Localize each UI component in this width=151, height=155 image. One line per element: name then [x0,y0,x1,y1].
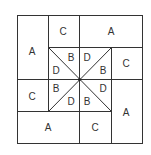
piece-label-a: A [45,122,52,133]
piece-label-b: B [53,83,60,94]
piece-label-a: A [29,46,36,57]
piece-label-a: A [108,26,115,37]
piece-label-c: C [28,91,35,102]
quilt-block-diagram: A C A C C A A C B D D B B D D B [0,0,151,155]
piece-label-c: C [122,58,129,69]
piece-label-d: D [83,52,90,63]
piece-label-d: D [52,65,59,76]
piece-label-b: B [68,52,75,63]
piece-label-a: A [123,107,130,118]
piece-label-d: D [67,96,74,107]
center-dot [78,78,81,81]
piece-label-b: B [84,96,91,107]
piece-label-d: D [99,83,106,94]
piece-label-c: C [59,26,66,37]
piece-label-b: B [100,65,107,76]
piece-label-c: C [91,122,98,133]
